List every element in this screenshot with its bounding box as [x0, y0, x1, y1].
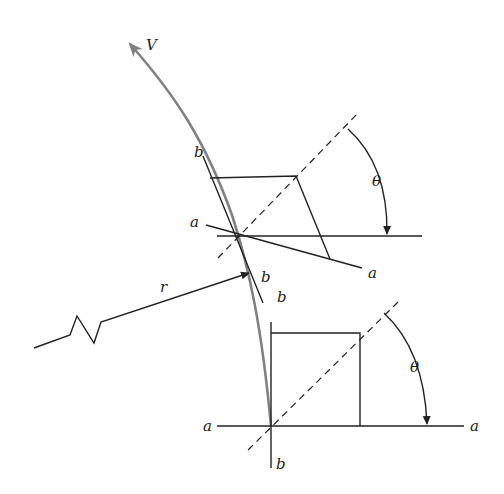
upper-b-top-label: b [194, 143, 204, 161]
diagram-canvas: V r θ a a b b θ a a b b [0, 0, 504, 494]
radius-line [34, 273, 249, 348]
lower-angle-arc [384, 313, 427, 424]
upper-theta-label: θ [372, 172, 381, 190]
radius-label: r [160, 278, 168, 296]
lower-theta-label: θ [410, 358, 419, 376]
lower-square-element [271, 333, 360, 426]
upper-a-left-label: a [190, 213, 199, 231]
upper-b-bottom-label: b [261, 268, 271, 286]
lower-b-top-label: b [277, 288, 287, 306]
upper-element: θ a a b b [190, 113, 422, 303]
streamline-curve [130, 44, 271, 426]
lower-a-left-label: a [203, 417, 212, 435]
upper-angle-arc [348, 129, 387, 234]
velocity-label: V [146, 36, 159, 54]
lower-b-bottom-label: b [276, 455, 286, 473]
lower-a-right-label: a [470, 417, 479, 435]
upper-a-right-label: a [368, 264, 377, 282]
lower-element: θ a a b b [203, 288, 479, 473]
